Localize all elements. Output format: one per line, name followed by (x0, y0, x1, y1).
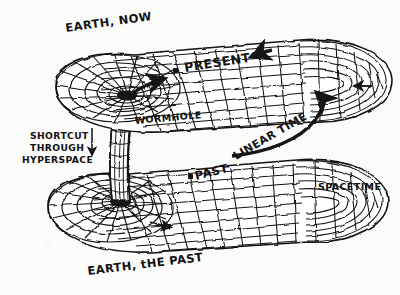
label-shortcut-line2: THROUGH (30, 142, 84, 153)
label-spacetime: SPACETIME (318, 181, 381, 192)
present-event-dot (173, 68, 178, 73)
past-event-dot (188, 174, 193, 179)
wormhole-spacetime-diagram: EARTH, NOW PRESENT WORMHOLE SHORTCUT THR… (0, 0, 400, 295)
label-shortcut-line3: HYPERSPACE (22, 154, 93, 165)
label-earth-now: EARTH, NOW (64, 9, 152, 35)
label-shortcut-line1: SHORTCUT (30, 130, 89, 141)
label-earth-the-past: EARTH, tHE PAST (87, 250, 204, 278)
